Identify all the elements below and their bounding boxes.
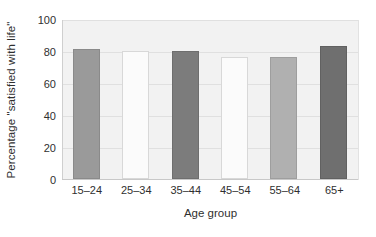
x-axis-line xyxy=(62,179,358,180)
bar-slot xyxy=(161,20,210,179)
y-axis-tick-label: 80 xyxy=(44,46,56,58)
bars-container xyxy=(62,20,358,179)
plot-area xyxy=(62,20,359,180)
y-axis-tick-labels: 020406080100 xyxy=(22,14,60,186)
x-axis-tick-label: 55–64 xyxy=(260,184,309,196)
x-axis-tick-label: 15–24 xyxy=(62,184,111,196)
bar-slot xyxy=(210,20,259,179)
x-axis-tick-label: 25–34 xyxy=(112,184,161,196)
x-axis-tick-label: 65+ xyxy=(310,184,359,196)
bar[interactable] xyxy=(172,51,199,179)
y-axis-tick-label: 60 xyxy=(44,78,56,90)
x-axis-title: Age group xyxy=(62,207,359,219)
y-axis-tick-label: 20 xyxy=(44,142,56,154)
y-axis-title: Percentage "satisfied with life" xyxy=(5,21,17,178)
bar[interactable] xyxy=(73,49,100,179)
bar[interactable] xyxy=(221,57,248,179)
bar[interactable] xyxy=(122,51,149,179)
y-axis-tick-label: 100 xyxy=(38,14,56,26)
y-axis-title-container: Percentage "satisfied with life" xyxy=(0,0,22,200)
x-axis-tick-label: 45–54 xyxy=(211,184,260,196)
bar-slot xyxy=(309,20,358,179)
y-axis-tick-label: 40 xyxy=(44,110,56,122)
bar[interactable] xyxy=(320,46,347,179)
x-axis-tick-label: 35–44 xyxy=(161,184,210,196)
bar-slot xyxy=(62,20,111,179)
bar-slot xyxy=(259,20,308,179)
y-axis-tick-label: 0 xyxy=(50,174,56,186)
bar-chart-figure: Percentage "satisfied with life" 0204060… xyxy=(0,0,376,237)
bar-slot xyxy=(111,20,160,179)
x-axis-tick-labels: 15–2425–3435–4445–5455–6465+ xyxy=(62,184,359,196)
bar[interactable] xyxy=(270,57,297,179)
